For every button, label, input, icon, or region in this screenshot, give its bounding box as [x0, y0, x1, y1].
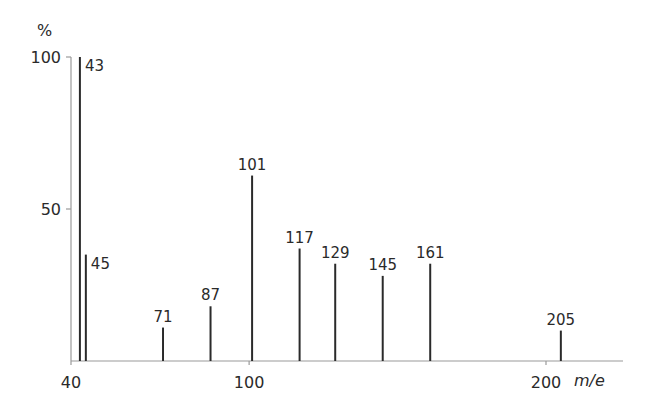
peaks: 43457187101117129145161205: [80, 57, 575, 361]
x-axis-label: m/e: [574, 371, 605, 390]
peak-129-label: 129: [321, 244, 350, 262]
peak-145-label: 145: [368, 256, 397, 274]
peak-101-label: 101: [238, 156, 267, 174]
x-tick-label: 100: [234, 373, 265, 392]
mass-spectrum-chart: % m/e 40100200 50100 4345718710111712914…: [0, 0, 649, 406]
peak-71-label: 71: [153, 308, 172, 326]
y-ticks: 50100: [30, 48, 71, 219]
x-tick-label: 200: [531, 373, 562, 392]
y-tick-label: 100: [30, 48, 61, 67]
x-ticks: 40100200: [61, 361, 561, 392]
x-tick-label: 40: [61, 373, 81, 392]
peak-45-label: 45: [91, 255, 110, 273]
y-tick-label: 50: [41, 200, 61, 219]
y-axis-label: %: [37, 21, 52, 40]
peak-205-label: 205: [547, 311, 576, 329]
axes: % m/e: [37, 21, 623, 390]
peak-117-label: 117: [285, 229, 314, 247]
peak-43-label: 43: [85, 57, 104, 75]
peak-87-label: 87: [201, 286, 220, 304]
peak-161-label: 161: [416, 244, 445, 262]
